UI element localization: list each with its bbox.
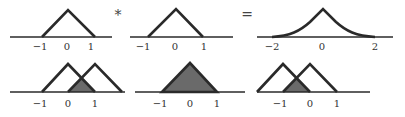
tick-label: 1: [214, 98, 220, 109]
overlap-area: [162, 63, 217, 92]
equals-operator: =: [241, 6, 253, 22]
tick-label: −2: [265, 41, 280, 52]
top-panel-convolution-result: −2 0 2: [257, 9, 393, 52]
tick-label: −1: [153, 98, 168, 109]
triangle-function: [42, 10, 95, 37]
convolution-operator: *: [115, 7, 122, 23]
bottom-panel-full-overlap: −1 0 1: [135, 63, 245, 109]
tick-label: 0: [64, 41, 70, 52]
convolution-diagram: −1 0 1 * −1 0 1 = −2 0 2 −1 0 1 −1 0 1: [0, 0, 405, 117]
overlap-area: [68, 78, 95, 92]
tick-label: 0: [172, 41, 178, 52]
tick-label: 1: [334, 98, 340, 109]
tick-label: 1: [92, 98, 98, 109]
tick-label: 0: [187, 98, 193, 109]
tick-label: −1: [33, 41, 48, 52]
convolution-curve: [272, 9, 375, 37]
tick-label: −1: [136, 41, 151, 52]
tick-label: 2: [372, 41, 378, 52]
tick-label: 0: [307, 98, 313, 109]
bottom-panel-overlap-left: −1 0 1: [257, 64, 370, 109]
tick-label: 1: [88, 41, 94, 52]
triangle-function: [148, 9, 203, 37]
tick-label: 0: [65, 98, 71, 109]
tick-label: 1: [201, 41, 207, 52]
tick-label: −1: [273, 98, 288, 109]
bottom-panel-overlap-right: −1 0 1: [10, 64, 125, 109]
tick-label: 0: [319, 41, 325, 52]
top-panel-triangle-1: −1 0 1: [10, 10, 112, 52]
overlap-area: [283, 78, 310, 92]
tick-label: −1: [33, 98, 48, 109]
top-panel-triangle-2: −1 0 1: [130, 9, 233, 52]
